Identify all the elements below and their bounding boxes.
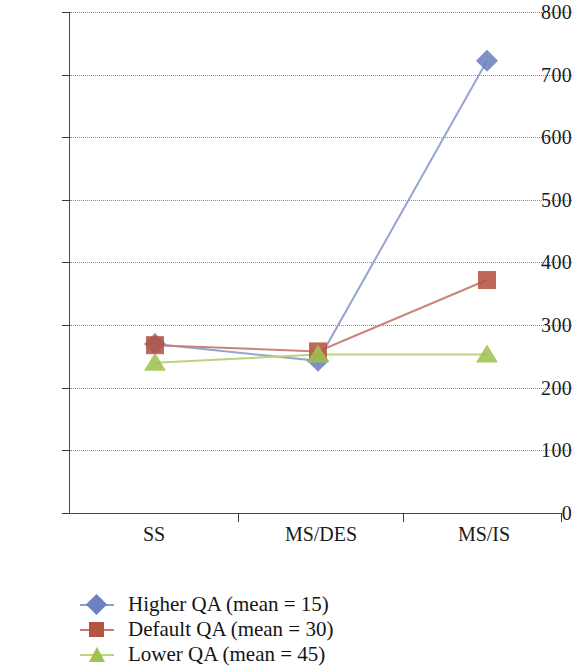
x-separator-2 <box>403 513 404 522</box>
data-point-2-0 <box>144 353 166 371</box>
legend-label-default-qa: Default QA (mean = 30) <box>128 617 333 642</box>
legend-key-lower-qa <box>80 642 114 667</box>
y-tick-500 <box>62 200 70 201</box>
legend-key-default-qa <box>80 617 114 642</box>
data-point-2-1 <box>307 345 329 363</box>
square-marker-icon <box>89 622 104 637</box>
data-point-0-1 <box>307 350 329 372</box>
line-chart: 800 700 600 500 400 300 200 100 0 SS MS/… <box>0 0 572 672</box>
gridline-200 <box>70 388 572 389</box>
x-axis-end-cap <box>561 513 562 522</box>
data-point-2-2 <box>476 345 498 363</box>
gridline-700 <box>70 75 572 76</box>
y-tick-800 <box>62 12 70 13</box>
y-tick-label-400: 400 <box>516 252 572 272</box>
y-tick-label-700: 700 <box>516 65 572 85</box>
gridline-500 <box>70 200 572 201</box>
legend-item-default-qa: Default QA (mean = 30) <box>80 617 500 642</box>
series-line-2 <box>155 355 487 363</box>
legend-label-lower-qa: Lower QA (mean = 45) <box>128 642 325 667</box>
y-tick-label-800: 800 <box>516 2 572 22</box>
y-tick-100 <box>62 450 70 451</box>
legend-key-higher-qa <box>80 592 114 617</box>
y-tick-600 <box>62 137 70 138</box>
x-label-ms-des: MS/DES <box>255 522 387 546</box>
y-tick-label-0: 0 <box>516 503 572 523</box>
data-point-1-0 <box>146 336 164 354</box>
data-point-1-1 <box>309 342 327 360</box>
data-point-1-2 <box>478 271 496 289</box>
gridline-600 <box>70 137 572 138</box>
y-tick-300 <box>62 325 70 326</box>
diamond-marker-icon <box>86 594 107 615</box>
triangle-marker-icon <box>89 647 105 662</box>
y-tick-label-100: 100 <box>516 440 572 460</box>
y-tick-label-200: 200 <box>516 378 572 398</box>
legend-item-higher-qa: Higher QA (mean = 15) <box>80 592 500 617</box>
y-tick-400 <box>62 262 70 263</box>
gridline-800 <box>70 12 572 13</box>
gridline-100 <box>70 450 572 451</box>
y-tick-0 <box>62 513 70 514</box>
data-point-0-2 <box>476 50 498 72</box>
x-axis-line <box>69 513 562 514</box>
gridline-400 <box>70 262 572 263</box>
series-line-1 <box>155 280 487 351</box>
series-layer <box>0 0 572 672</box>
x-label-ms-is: MS/IS <box>425 522 543 546</box>
chart-legend: Higher QA (mean = 15) Default QA (mean =… <box>80 592 500 667</box>
y-tick-200 <box>62 388 70 389</box>
x-separator-1 <box>238 513 239 522</box>
legend-item-lower-qa: Lower QA (mean = 45) <box>80 642 500 667</box>
legend-label-higher-qa: Higher QA (mean = 15) <box>128 592 329 617</box>
x-label-ss: SS <box>99 522 209 546</box>
data-point-0-0 <box>144 333 166 355</box>
y-tick-700 <box>62 75 70 76</box>
y-tick-label-500: 500 <box>516 190 572 210</box>
gridline-300 <box>70 325 572 326</box>
series-line-0 <box>155 61 487 361</box>
y-tick-label-300: 300 <box>516 315 572 335</box>
y-tick-label-600: 600 <box>516 127 572 147</box>
